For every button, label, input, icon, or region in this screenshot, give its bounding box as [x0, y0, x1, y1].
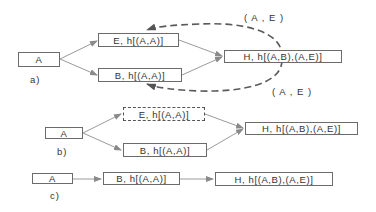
panel-a-node-h: H, h[(A,B),(A,E)] — [224, 50, 342, 63]
panel-a-label: a) — [30, 74, 40, 85]
panel-a-node-e: E, h[(A,A)] — [98, 33, 179, 47]
panel-a-edge-label-bottom: ( A , E ) — [272, 86, 312, 97]
panel-b-node-b: B, h[(A,A)] — [123, 143, 207, 157]
panel-b-node-e-dashed: E, h[(A,A)] — [123, 107, 205, 121]
panel-a-edge-label-top: ( A , E ) — [244, 12, 284, 23]
panel-b-node-a: A — [45, 127, 83, 139]
panel-c-label: c) — [50, 190, 60, 201]
panel-c-node-a: A — [32, 173, 73, 184]
panel-a-node-b: B, h[(A,A)] — [98, 68, 182, 82]
panel-b-label: b) — [57, 146, 67, 157]
panel-a-node-a: A — [18, 52, 60, 67]
panel-c-node-h: H, h[(A,B),(A,E)] — [215, 172, 333, 186]
panel-c-node-b: B, h[(A,A)] — [103, 172, 180, 185]
panel-b-node-h: H, h[(A,B),(A,E)] — [245, 122, 358, 135]
